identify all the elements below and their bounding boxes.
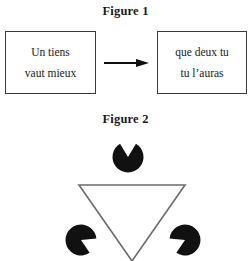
- pacman-disc-group: [66, 144, 201, 256]
- illusory-triangle-outline: [79, 185, 185, 261]
- arrow-shaft: [104, 62, 138, 64]
- kanizsa-svg: [0, 128, 251, 261]
- figure-sheet: Figure 1 Un tiens vaut mieux que deux tu…: [0, 0, 251, 261]
- figure-1-title: Figure 1: [0, 4, 251, 19]
- concept-box-right-line-2: tu l’auras: [180, 67, 223, 79]
- top-disc: [112, 144, 143, 173]
- kanizsa-triangle-illustration: [0, 128, 251, 261]
- concept-box-right-line-1: que deux tu: [175, 46, 229, 58]
- bottom-left-disc: [66, 224, 97, 255]
- figure-2-title: Figure 2: [0, 112, 251, 127]
- concept-box-left: Un tiens vaut mieux: [5, 31, 96, 94]
- arrow-right-icon: [104, 59, 150, 68]
- concept-box-left-line-1: Un tiens: [31, 46, 70, 58]
- arrow-head: [136, 59, 149, 67]
- concept-box-left-line-2: vaut mieux: [25, 67, 76, 79]
- bottom-right-disc: [170, 224, 201, 255]
- concept-box-right: que deux tu tu l’auras: [157, 31, 247, 94]
